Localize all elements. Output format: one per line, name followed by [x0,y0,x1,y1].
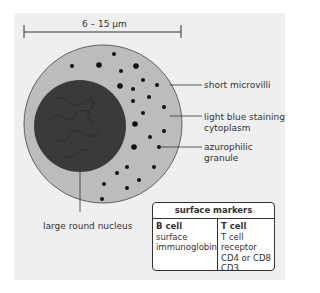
b-cell-column: B cell surface immunoglobin [153,219,218,271]
label-cytoplasm-line2: cytoplasm [204,123,251,134]
nucleus [34,80,126,172]
label-short-microvilli: short microvilli [204,80,271,91]
label-cytoplasm-line1: light blue staining [204,112,285,123]
t-cell-line: T cell receptor [221,232,271,253]
t-cell-line: CD3 [221,263,271,274]
b-cell-heading: B cell [156,221,214,232]
scale-label: 6 – 15 µm [82,19,127,30]
label-large-round-nucleus: large round nucleus [43,221,132,232]
table-title: surface markers [153,203,274,219]
t-cell-line: CD4 or CD8 [221,253,271,264]
surface-markers-table: surface markers B cell surface immunoglo… [152,202,275,271]
b-cell-line: immunoglobin [156,242,214,253]
t-cell-heading: T cell [221,221,271,232]
label-granule-line1: azurophilic [204,142,253,153]
b-cell-line: surface [156,232,214,243]
t-cell-column: T cell T cell receptor CD4 or CD8 CD3 [218,219,274,271]
label-granule-line2: granule [204,153,238,164]
